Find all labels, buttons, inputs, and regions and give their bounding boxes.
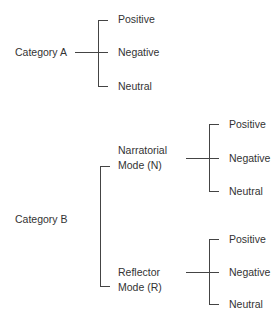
category-a-neutral: Neutral <box>118 80 152 93</box>
reflector-mode-line1: Reflector <box>118 266 160 279</box>
category-a-positive: Positive <box>118 13 155 26</box>
reflector-negative: Negative <box>229 266 270 279</box>
narratorial-negative: Negative <box>229 152 270 165</box>
narratorial-mode-line1: Narratorial <box>118 144 167 157</box>
category-a-negative: Negative <box>118 46 159 59</box>
category-a-label: Category A <box>15 46 67 59</box>
reflector-neutral: Neutral <box>229 298 263 311</box>
reflector-positive: Positive <box>229 233 266 246</box>
narratorial-neutral: Neutral <box>229 185 263 198</box>
narratorial-mode-line2: Mode (N) <box>118 159 162 172</box>
reflector-mode-line2: Mode (R) <box>118 281 162 294</box>
narratorial-positive: Positive <box>229 118 266 131</box>
category-b-label: Category B <box>15 213 68 226</box>
